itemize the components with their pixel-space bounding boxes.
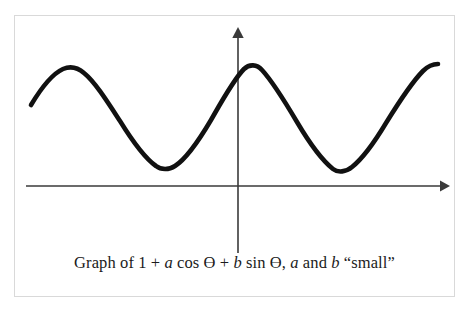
caption-variable-a-second: a bbox=[290, 253, 298, 272]
caption-sin: sin bbox=[242, 253, 270, 272]
figure-container: Graph of 1 + a cos ϴ + b sin ϴ, a and b … bbox=[0, 0, 470, 315]
caption-theta-first: ϴ bbox=[204, 253, 216, 272]
caption-cos: cos bbox=[173, 253, 204, 272]
caption-plus: + bbox=[216, 253, 234, 272]
x-axis-arrowhead-icon bbox=[440, 181, 450, 192]
caption-comma: , bbox=[282, 253, 290, 272]
caption-variable-b-first: b bbox=[233, 253, 241, 272]
caption-small-quoted: “small” bbox=[340, 253, 395, 272]
caption-lead: Graph of 1 + bbox=[74, 253, 164, 272]
caption-theta-second: ϴ bbox=[270, 253, 282, 272]
caption-variable-a-first: a bbox=[164, 253, 172, 272]
y-axis-arrowhead-icon bbox=[232, 27, 243, 38]
caption-and: and bbox=[299, 253, 332, 272]
sinusoid-curve bbox=[31, 64, 438, 171]
figure-caption: Graph of 1 + a cos ϴ + b sin ϴ, a and b … bbox=[14, 252, 455, 274]
caption-variable-b-second: b bbox=[331, 253, 339, 272]
